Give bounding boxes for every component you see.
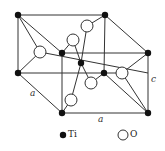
label-a-left: a [30, 88, 35, 98]
legend-o-icon [118, 130, 128, 140]
label-c: c [151, 74, 156, 84]
unit-cell-diagram [0, 0, 165, 151]
legend-ti-icon [60, 132, 66, 138]
label-a-bottom: a [98, 114, 103, 124]
legend-o-label: O [130, 129, 137, 139]
legend-ti-label: Ti [68, 129, 77, 139]
